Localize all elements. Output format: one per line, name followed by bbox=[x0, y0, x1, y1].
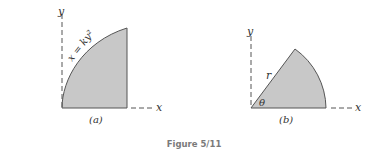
panel-a: y x x = ky² (a) bbox=[57, 5, 163, 125]
figure-canvas: y x x = ky² (a) y x r θ (b) Figure 5/11 bbox=[0, 0, 388, 154]
radius-label: r bbox=[266, 69, 272, 82]
y-axis-label-a: y bbox=[57, 5, 65, 18]
parabolic-area bbox=[62, 28, 127, 108]
x-axis-label-a: x bbox=[156, 101, 163, 114]
panel-label-b: (b) bbox=[279, 114, 293, 125]
y-axis-label-b: y bbox=[246, 25, 254, 38]
x-axis-label-b: x bbox=[355, 101, 362, 114]
panel-label-a: (a) bbox=[89, 114, 103, 125]
figure-caption: Figure 5/11 bbox=[167, 139, 222, 149]
angle-label: θ bbox=[259, 97, 265, 108]
panel-b: y x r θ (b) bbox=[246, 25, 362, 125]
